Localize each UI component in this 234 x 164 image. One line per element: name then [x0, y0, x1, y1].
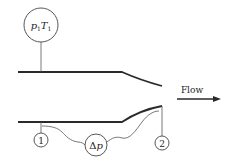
nozzle-flow-diagram: p1T1 1 Δp 2 Flow: [0, 0, 234, 164]
lower-pipe-wall: [18, 106, 162, 122]
tap-1-label: 1: [38, 136, 44, 146]
flow-indicator: Flow: [177, 85, 221, 102]
tap-2: 2: [155, 136, 169, 150]
flow-arrow-head-icon: [213, 96, 221, 102]
tap-2-label: 2: [159, 139, 165, 149]
differential-pressure-gauge: Δp: [85, 134, 107, 156]
delta-symbol: Δ: [89, 140, 96, 151]
tubing-tap1-to-gauge: [42, 126, 85, 145]
upper-pipe-wall: [18, 72, 162, 86]
gauge-pressure-symbol: p: [96, 140, 103, 151]
temperature-subscript: 1: [48, 25, 52, 32]
inlet-sensor: p1T1: [24, 8, 58, 42]
flow-label: Flow: [181, 85, 204, 95]
svg-text:Δp: Δp: [89, 140, 103, 151]
tap-1: 1: [34, 133, 48, 147]
